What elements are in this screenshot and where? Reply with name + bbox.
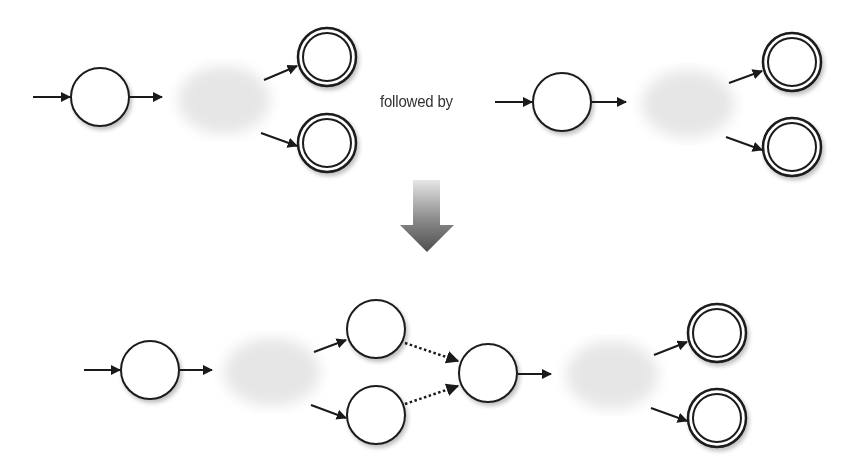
machine-a [33, 28, 356, 172]
machine-b-body-cloud [642, 70, 734, 138]
start-state [121, 341, 179, 399]
transition-arrow [651, 408, 687, 421]
machine-b [495, 33, 821, 176]
accept-state [763, 118, 821, 176]
transition-arrow [314, 340, 346, 352]
accept-state [688, 304, 746, 362]
nfa-concatenation-diagram [0, 0, 854, 472]
start-state [71, 68, 129, 126]
former-accept-state [347, 300, 405, 358]
machine-a-body-cloud [178, 66, 270, 134]
former-accept-state [347, 386, 405, 444]
transition-arrow [729, 71, 762, 83]
transition-arrow [264, 66, 297, 80]
accept-state [298, 114, 356, 172]
transition-arrow [311, 405, 346, 418]
transition-arrow [726, 137, 762, 150]
accept-state [763, 33, 821, 91]
join-state [459, 344, 517, 402]
concatenated-machine [84, 300, 746, 447]
start-state [533, 73, 591, 131]
result-cloud-a [224, 338, 320, 406]
transition-arrow [654, 342, 687, 355]
epsilon-transition [405, 386, 458, 404]
result-cloud-b [566, 341, 658, 409]
accept-state [298, 28, 356, 86]
transition-arrow [261, 133, 297, 146]
followed-by-label: followed by [380, 92, 453, 112]
epsilon-transition [405, 343, 458, 361]
transform-down-arrow-icon [400, 180, 454, 252]
accept-state [688, 389, 746, 447]
